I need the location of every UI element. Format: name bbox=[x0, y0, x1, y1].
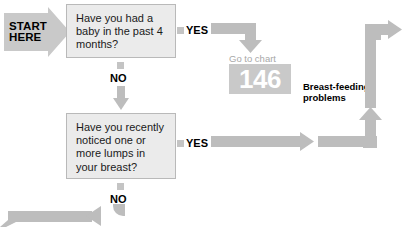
no-2-connector-square bbox=[117, 183, 124, 190]
yes-1-arrow-head-down-icon bbox=[239, 40, 262, 53]
start-here-label: START HERE bbox=[9, 21, 47, 44]
goto-chart-label: Go to chart bbox=[229, 53, 276, 64]
flowchart-canvas: START HERE Have you had a baby in the pa… bbox=[0, 0, 410, 233]
question-box-2: Have you recently noticed one or more lu… bbox=[66, 113, 176, 179]
yes-2-arrow-head-right-icon bbox=[300, 132, 314, 151]
no-1-label: NO bbox=[110, 73, 127, 84]
no-2-arrow-head-left-icon bbox=[86, 206, 101, 226]
riser-arrow-head-up-icon bbox=[359, 107, 382, 120]
question-box-1: Have you had a baby in the past 4 months… bbox=[66, 4, 176, 58]
chart-number-badge[interactable]: 146 bbox=[229, 64, 291, 94]
yes-2-label: YES bbox=[186, 138, 208, 149]
question-1-text: Have you had a baby in the past 4 months… bbox=[76, 12, 167, 52]
no-1-arrow-head-down-icon bbox=[113, 98, 129, 110]
top-arrow-head-right-icon bbox=[388, 20, 402, 39]
start-line-2: HERE bbox=[9, 31, 41, 43]
yes-2-connector-square bbox=[177, 140, 184, 147]
no-2-curve bbox=[113, 204, 125, 216]
start-line-1: START bbox=[9, 20, 47, 32]
riser-upper-segment bbox=[365, 33, 376, 108]
no-2-arrow-bar bbox=[8, 211, 92, 222]
start-here-arrow: START HERE bbox=[4, 7, 70, 57]
no-1-connector-square bbox=[117, 62, 124, 69]
yes-2-arrow-bar bbox=[211, 136, 304, 147]
riser-lower-segment bbox=[365, 119, 376, 145]
no-1-arrow-stem bbox=[117, 86, 125, 100]
diagnosis-label: Breast-feedingproblems bbox=[303, 81, 370, 103]
question-2-text: Have you recently noticed one or more lu… bbox=[76, 121, 167, 174]
yes-1-connector-square bbox=[177, 27, 184, 34]
yes-1-arrow-stem bbox=[245, 23, 256, 42]
chart-number: 146 bbox=[239, 66, 281, 92]
yes-1-label: YES bbox=[186, 25, 208, 36]
elbow-top-corner bbox=[365, 24, 381, 40]
